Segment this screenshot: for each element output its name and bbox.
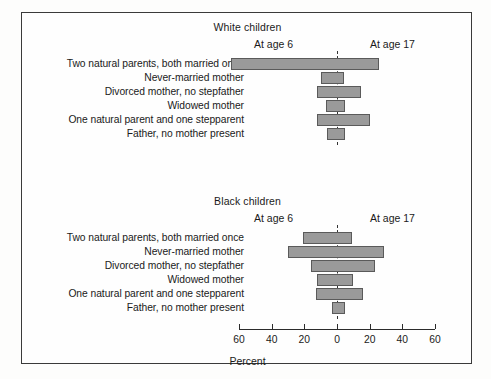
x-tick-label: 40 bbox=[390, 334, 414, 345]
series-label-at-age-6-white: At age 6 bbox=[254, 38, 293, 50]
x-tick-label: 40 bbox=[260, 334, 284, 345]
x-tick bbox=[402, 324, 403, 329]
bar-0-3 bbox=[326, 100, 346, 112]
x-axis-line bbox=[239, 329, 435, 330]
panel-title-black: Black children bbox=[22, 195, 473, 207]
x-tick bbox=[370, 324, 371, 329]
bar-1-1 bbox=[288, 246, 384, 258]
x-tick bbox=[272, 324, 273, 329]
bar-1-5 bbox=[332, 302, 345, 314]
x-tick-label: 60 bbox=[423, 334, 447, 345]
x-axis: 6040200204060 bbox=[22, 323, 473, 353]
series-label-at-age-17-black: At age 17 bbox=[370, 212, 415, 224]
x-tick-label: 0 bbox=[325, 334, 349, 345]
x-tick-label: 20 bbox=[292, 334, 316, 345]
panel-title-white: White children bbox=[22, 21, 473, 33]
bar-0-5 bbox=[327, 128, 345, 140]
series-label-at-age-17-white: At age 17 bbox=[370, 38, 415, 50]
bar-0-2 bbox=[317, 86, 361, 98]
bar-0-4 bbox=[317, 114, 369, 126]
plot-area-black bbox=[22, 231, 473, 331]
plot-area-white bbox=[22, 57, 473, 157]
x-axis-title: Percent bbox=[22, 355, 473, 367]
bar-1-4 bbox=[316, 288, 363, 300]
bar-0-1 bbox=[321, 72, 344, 84]
x-tick bbox=[337, 324, 338, 329]
figure-container: White children At age 6 At age 17 Two na… bbox=[0, 0, 491, 379]
chart-frame: White children At age 6 At age 17 Two na… bbox=[21, 12, 472, 364]
bar-1-2 bbox=[311, 260, 375, 272]
x-tick bbox=[435, 324, 436, 329]
x-tick bbox=[304, 324, 305, 329]
series-label-at-age-6-black: At age 6 bbox=[254, 212, 293, 224]
x-tick-label: 60 bbox=[227, 334, 251, 345]
bar-0-0 bbox=[231, 58, 380, 70]
x-tick-label: 20 bbox=[358, 334, 382, 345]
bar-1-0 bbox=[303, 232, 352, 244]
panel-white-children: White children At age 6 At age 17 Two na… bbox=[22, 13, 473, 189]
x-tick bbox=[239, 324, 240, 329]
panel-black-children: Black children At age 6 At age 17 Two na… bbox=[22, 189, 473, 365]
bar-1-3 bbox=[317, 274, 353, 286]
